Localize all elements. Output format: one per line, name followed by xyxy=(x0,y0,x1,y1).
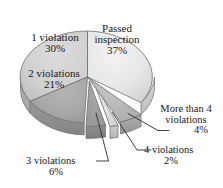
side-wall-four-violations xyxy=(110,125,118,138)
pie-chart-figure: Passed inspection 37% 1 violation 30% 2 … xyxy=(0,0,223,188)
pie-chart-graphic xyxy=(0,0,223,188)
side-wall-three-violations xyxy=(86,125,106,138)
